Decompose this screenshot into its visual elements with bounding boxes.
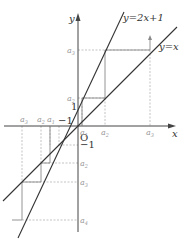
svg-text:a2: a2 [37, 115, 45, 125]
y-label-a3-lower: a3 [80, 178, 88, 188]
line1-label: y=2x+1 [122, 12, 164, 23]
cobweb-diagram: y x y=2x+1 y=x O 1 −1 −1 a3 a2 a1 a2 a3 … [0, 0, 186, 240]
y-axis-arrow-icon [76, 13, 81, 21]
svg-text:a3: a3 [67, 46, 75, 56]
svg-text:a4: a4 [80, 216, 88, 226]
y-label-a4-lower: a4 [80, 216, 88, 226]
x-label-a2-upper: a2 [101, 128, 109, 138]
svg-text:a2: a2 [101, 128, 109, 138]
x-label-a3-lower: a3 [20, 115, 28, 125]
svg-text:a2: a2 [67, 94, 75, 104]
x-axis-label: x [172, 128, 178, 139]
line-y-x [3, 27, 177, 201]
tick-neg-one-y: −1 [80, 139, 95, 150]
tick-neg-one-x: −1 [58, 115, 73, 126]
x-label-a1-upper: a1 [80, 128, 88, 138]
x-label-a2-lower: a2 [37, 115, 45, 125]
y-label-a2-lower: a2 [80, 159, 88, 169]
y-label-a2-upper: a2 [67, 94, 75, 104]
svg-text:a1: a1 [80, 128, 88, 138]
x-label-a3-upper: a3 [146, 128, 154, 138]
y-label-a3-upper: a3 [67, 46, 75, 56]
upper-cobweb [82, 35, 152, 126]
svg-text:a3: a3 [146, 128, 154, 138]
svg-text:a1: a1 [47, 115, 55, 125]
line2-label: y=x [158, 41, 179, 52]
x-label-a1-lower: a1 [47, 115, 55, 125]
svg-text:a2: a2 [80, 159, 88, 169]
svg-text:a3: a3 [80, 178, 88, 188]
y-axis-label: y [68, 13, 75, 24]
svg-text:a3: a3 [20, 115, 28, 125]
